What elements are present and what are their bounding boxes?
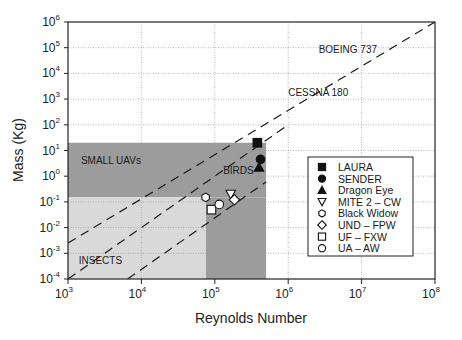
circle-legend-icon — [318, 245, 325, 252]
legend-label: LAURA — [338, 161, 373, 173]
y-tick-label: 105 — [42, 39, 60, 55]
x-tick-label: 103 — [55, 285, 73, 301]
y-axis-title: Mass (Kg) — [10, 118, 26, 182]
data-point-circle-marker-icon — [256, 155, 265, 164]
legend-label: Dragon Eye — [338, 184, 394, 196]
region-label: SMALL UAVs — [81, 155, 141, 166]
x-tick-label: 108 — [422, 285, 440, 301]
data-point-square-marker-icon — [253, 138, 262, 147]
x-axis-title: Reynolds Number — [195, 310, 307, 326]
y-tick-label: 10-2 — [40, 219, 61, 235]
x-tick-label: 107 — [349, 285, 367, 301]
aircraft-annotation: BOEING 737 — [319, 44, 378, 55]
x-tick-label: 106 — [275, 285, 293, 301]
y-tick-label: 106 — [42, 13, 60, 29]
data-point-circle-marker-icon — [215, 200, 224, 209]
square-legend-icon — [318, 163, 325, 170]
legend-label: Black Widow — [338, 207, 399, 219]
circle-legend-icon — [318, 175, 325, 182]
region-2 — [68, 197, 206, 279]
y-tick-label: 103 — [42, 90, 60, 106]
legend-label: SENDER — [338, 173, 382, 185]
y-tick-label: 100 — [42, 167, 60, 183]
y-tick-label: 104 — [42, 64, 60, 80]
y-tick-label: 10-1 — [40, 193, 61, 209]
y-tick-label: 101 — [42, 142, 60, 158]
legend: LAURASENDERDragon EyeMITE 2 – CWBlack Wi… — [308, 157, 413, 256]
data-point-hexagon-marker-icon — [202, 193, 209, 202]
data-point-square-marker-icon — [207, 205, 216, 214]
legend-label: MITE 2 – CW — [338, 196, 401, 208]
x-tick-label: 104 — [128, 285, 146, 301]
region-label: INSECTS — [79, 255, 123, 266]
mass-vs-reynolds-chart: SMALL UAVsBIRDSINSECTSBOEING 737CESSNA 1… — [0, 0, 462, 340]
aircraft-annotation: CESSNA 180 — [288, 87, 348, 98]
legend-label: UF – FXW — [338, 231, 387, 243]
legend-label: UND – FPW — [338, 219, 396, 231]
y-tick-label: 10-4 — [40, 270, 61, 286]
hexagon-legend-icon — [319, 210, 325, 217]
y-tick-label: 10-3 — [40, 244, 61, 260]
legend-label: UA – AW — [338, 242, 380, 254]
x-tick-label: 105 — [202, 285, 220, 301]
region-label: BIRDS — [223, 165, 254, 176]
square-legend-icon — [318, 233, 325, 240]
y-tick-label: 102 — [42, 116, 60, 132]
